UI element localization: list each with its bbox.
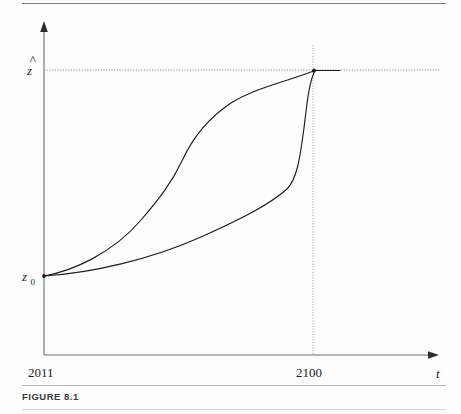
- figure-caption: FIGURE 8.1: [22, 391, 79, 402]
- end-point-marker-icon: [312, 69, 316, 73]
- x-tick-2011: 2011: [28, 365, 54, 380]
- x-axis-symbol-t: t: [436, 366, 440, 380]
- arrow-up-icon: [40, 21, 48, 32]
- y-axis-z0-label: z 0: [21, 269, 36, 287]
- zhat-accent: ^: [30, 52, 37, 67]
- caption-top-rule: [22, 385, 446, 386]
- curve-upper-path: [44, 71, 315, 277]
- chart-svg: z ^ z 0 2011 2100 t: [0, 8, 461, 380]
- page-top-rule: [22, 3, 446, 4]
- arrow-right-icon: [428, 351, 439, 359]
- figure-page: z ^ z 0 2011 2100 t FIGURE 8.1: [0, 0, 461, 414]
- z0-subscript: 0: [31, 277, 36, 287]
- x-tick-2100: 2100: [296, 365, 322, 380]
- y-axis-zhat-label: z ^: [26, 52, 37, 78]
- curve-lower-path: [44, 71, 315, 277]
- caption-bottom-rule: [22, 409, 446, 410]
- figure-plot-area: z ^ z 0 2011 2100 t: [0, 8, 461, 380]
- z0-symbol: z: [21, 269, 27, 284]
- start-point-marker-icon: [42, 274, 46, 278]
